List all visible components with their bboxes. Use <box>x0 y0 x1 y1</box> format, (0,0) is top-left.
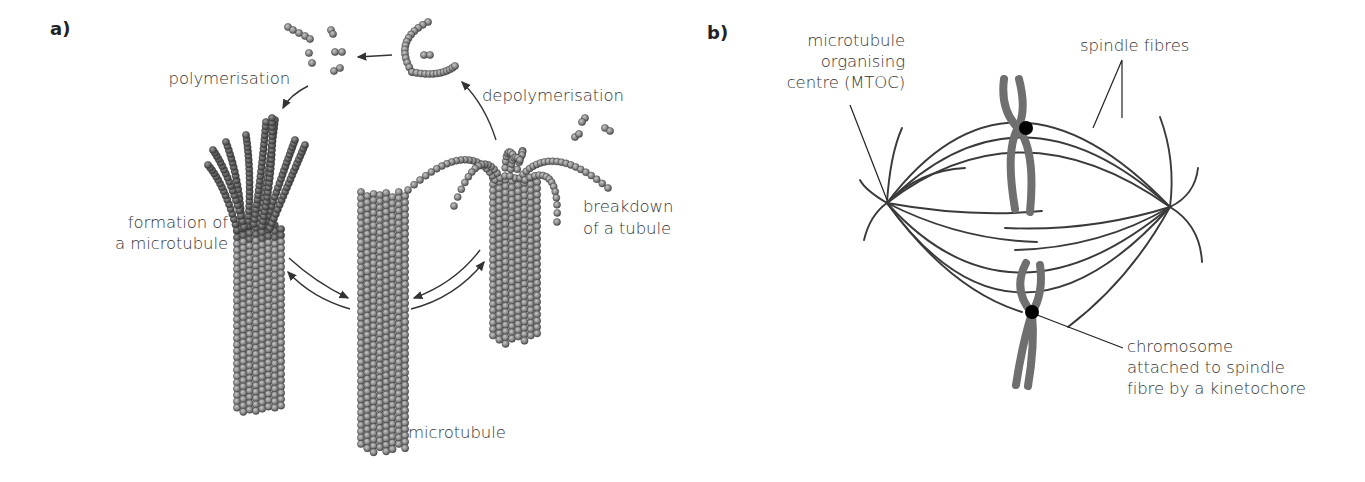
mtoc-label-line2: organising <box>760 51 905 72</box>
formation-label-line2: a microtubule <box>80 233 228 254</box>
mtoc-label-line1: microtubule <box>760 30 905 51</box>
formation-label-line1: formation of <box>80 212 228 233</box>
chromosome-bottom <box>1016 263 1041 386</box>
free-tubulin-dimers <box>284 18 613 140</box>
breakdown-label-line1: breakdown <box>583 196 673 217</box>
right-back-arrow <box>411 262 484 309</box>
left-back-arrow <box>288 272 350 309</box>
right-forward-arrow <box>414 250 480 298</box>
forming-microtubule <box>204 114 308 415</box>
chromosome-label-line2: attached to spindle <box>1127 357 1285 378</box>
top-cycle-arrow <box>358 55 392 57</box>
depolymerisation-label: depolymerisation <box>482 85 624 106</box>
chromosome-label-line3: fibre by a kinetochore <box>1127 378 1306 399</box>
chromosome-label-line1: chromosome <box>1127 336 1233 357</box>
polymerisation-label: polymerisation <box>140 68 290 89</box>
chromosome-leader-line <box>1032 313 1123 348</box>
spindle-fibres-leader <box>1093 60 1122 128</box>
breaking-microtubule <box>405 147 612 347</box>
breakdown-label-line2: of a tubule <box>583 218 671 239</box>
chromosome-top <box>1003 79 1031 212</box>
mtoc-leader-line <box>850 105 887 200</box>
kinetochore-top <box>1019 121 1033 135</box>
mtoc-label-line3: centre (MTOC) <box>760 72 905 93</box>
microtubule-label: microtubule <box>408 422 506 443</box>
microtubule-intact <box>357 188 408 456</box>
polymerisation-arrow <box>283 86 308 108</box>
panel-b-mitotic-spindle: b) <box>690 0 1365 482</box>
left-forward-arrow <box>289 258 348 298</box>
kinetochore-bottom <box>1025 305 1039 319</box>
panel-a-microtubule-dynamics: a) <box>0 0 690 482</box>
spindle-fibres-label: spindle fibres <box>1080 35 1189 56</box>
